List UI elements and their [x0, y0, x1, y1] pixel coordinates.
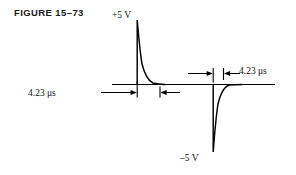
negative-spike-trace: [213, 85, 242, 153]
figure-container: FIGURE 15–73 +5 V –5 V 4.23 μs 4.23 μs: [0, 0, 296, 175]
negative-peak-label: –5 V: [180, 153, 199, 163]
positive-spike-trace: [137, 20, 165, 85]
time-label-left: 4.23 μs: [28, 88, 56, 98]
dimension-arrowhead-right-lower: [131, 90, 137, 95]
positive-peak-label: +5 V: [112, 10, 131, 20]
dimension-arrowhead-right-upper: [207, 71, 213, 76]
time-label-right: 4.23 μs: [239, 66, 267, 76]
dimension-arrowhead-left-lower: [160, 90, 166, 95]
dimension-arrowhead-left-upper: [224, 71, 230, 76]
